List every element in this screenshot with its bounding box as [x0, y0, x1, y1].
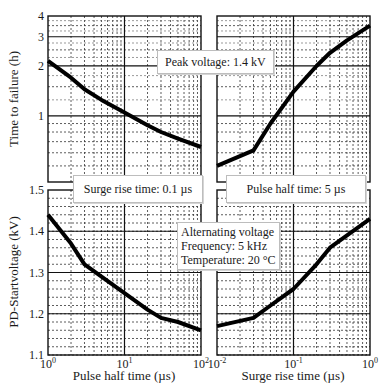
panel-top-right	[217, 16, 370, 182]
y-tick-label: 1.4	[29, 224, 44, 238]
x-tick-label: 10-2	[208, 356, 227, 371]
x-axis-label-right: Surge rise time (µs)	[242, 368, 345, 383]
ac-voltage-text: Alternating voltage	[181, 225, 276, 239]
peak-voltage-annotation: Peak voltage: 1.4 kV	[157, 50, 274, 74]
x-tick-label: 100	[362, 356, 378, 371]
x-tick-label: 102	[193, 356, 209, 371]
x-tick-label: 100	[40, 356, 56, 371]
pulse-half-time-annotation: Pulse half time: 5 µs	[226, 175, 366, 203]
x-axis-label-left: Pulse half time (µs)	[73, 368, 175, 383]
y-tick-label: 2	[38, 59, 44, 73]
y-tick-label: 1.5	[29, 183, 44, 197]
pulse-half-time-text: Pulse half time: 5 µs	[247, 182, 346, 196]
frequency-text: Frequency: 5 kHz	[181, 239, 276, 253]
y-tick-label: 1.3	[29, 266, 44, 280]
surge-rise-time-annotation: Surge rise time: 0.1 µs	[73, 175, 203, 203]
panel-top-left: 1234	[38, 9, 201, 182]
y-axis-label-top: Time to failure (h)	[6, 51, 21, 147]
panel-bottom-left: 1.11.21.31.41.5100101102	[29, 183, 209, 371]
test-conditions-annotation: Alternating voltage Frequency: 5 kHz Tem…	[177, 222, 280, 270]
surge-rise-time-text: Surge rise time: 0.1 µs	[84, 182, 192, 196]
y-tick-label: 3	[38, 30, 44, 44]
y-tick-label: 1.2	[29, 307, 44, 321]
peak-voltage-text: Peak voltage: 1.4 kV	[165, 55, 266, 69]
y-axis-label-bottom: PD-Startvoltage (kV)	[6, 216, 21, 328]
panel-bottom-right: 10-210-1100	[208, 190, 378, 371]
temperature-text: Temperature: 20 °C	[181, 253, 276, 267]
y-tick-label: 1	[38, 109, 44, 123]
y-tick-label: 4	[38, 9, 44, 23]
